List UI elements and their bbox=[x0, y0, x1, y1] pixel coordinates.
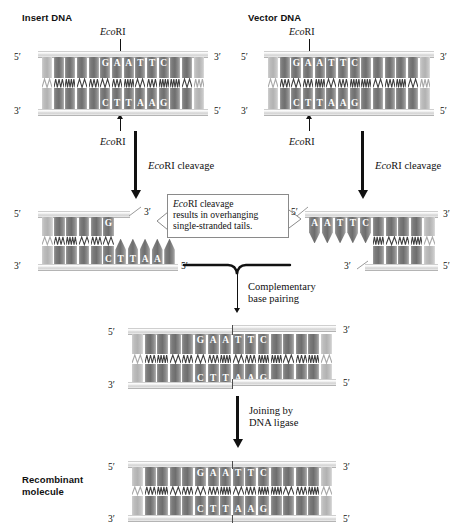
base-pair-column: GC bbox=[103, 217, 114, 265]
base-top-strand: G bbox=[100, 57, 110, 78]
hydrogen-bond-mark bbox=[157, 354, 168, 364]
base-letter: C bbox=[350, 58, 360, 68]
base-pair-column: TA bbox=[135, 57, 145, 109]
prime-3-vector-topright: 3′ bbox=[440, 52, 447, 62]
base-pair-column bbox=[54, 217, 65, 265]
base-pair-column: AT bbox=[208, 334, 219, 384]
base-pair-column: GC bbox=[195, 334, 206, 384]
base-letter: A bbox=[326, 98, 336, 108]
base-top-strand bbox=[132, 467, 143, 486]
base-letter: A bbox=[135, 98, 145, 108]
base-track: AATTC bbox=[309, 217, 435, 265]
base-bottom-strand bbox=[89, 88, 99, 109]
cut-arrow-vector-top bbox=[309, 39, 310, 51]
hydrogen-bond-mark bbox=[100, 78, 110, 88]
base-bottom-strand: T bbox=[124, 88, 134, 109]
base-pair-column: TA bbox=[147, 57, 157, 109]
base-letter: T bbox=[220, 504, 231, 514]
base-letter: A bbox=[220, 468, 231, 478]
base-pair-column: AT bbox=[315, 57, 325, 109]
base-top-strand: T bbox=[147, 57, 157, 78]
base-letter: T bbox=[147, 58, 157, 68]
base-letter: C bbox=[100, 98, 110, 108]
base-pair-column bbox=[42, 217, 53, 265]
base-pair-column: GC bbox=[100, 57, 110, 109]
fragment-vector-top-shoulder bbox=[296, 206, 310, 217]
title-insert-dna: Insert DNA bbox=[22, 12, 72, 23]
hydrogen-bond-mark bbox=[208, 354, 219, 364]
enzyme-label-insert-top: EcoRI bbox=[100, 26, 126, 37]
base-letter: T bbox=[208, 504, 219, 514]
prime-3-vector-botleft: 3′ bbox=[241, 106, 248, 116]
hydrogen-bond-mark bbox=[411, 236, 422, 246]
base-pair-column: AT bbox=[220, 467, 231, 515]
title-vector-dna: Vector DNA bbox=[248, 12, 301, 23]
base-letter: T bbox=[245, 468, 256, 478]
base-pair-column bbox=[321, 467, 332, 515]
base-pair-column: TA bbox=[326, 57, 336, 109]
base-top-strand: A bbox=[220, 334, 231, 354]
base-bottom-strand: T bbox=[112, 88, 122, 109]
base-letter: G bbox=[195, 468, 206, 478]
base-pair-column bbox=[157, 467, 168, 515]
base-letter: A bbox=[208, 335, 219, 345]
base-top-strand bbox=[132, 334, 143, 354]
base-pair-column bbox=[373, 217, 384, 265]
base-top-strand bbox=[145, 334, 156, 354]
base-pair-column bbox=[361, 57, 371, 109]
base-pair-column bbox=[280, 57, 290, 109]
base-top-strand: T bbox=[233, 467, 244, 486]
hydrogen-bond-mark bbox=[361, 78, 371, 88]
base-bottom-strand bbox=[170, 364, 181, 384]
hydrogen-bond-mark bbox=[233, 486, 244, 496]
base-letter: T bbox=[315, 98, 325, 108]
hydrogen-bond-mark bbox=[170, 354, 181, 364]
base-letter: A bbox=[309, 218, 320, 228]
base-bottom-strand: C bbox=[100, 88, 110, 109]
base-top-strand: A bbox=[124, 57, 134, 78]
figure-canvas: Insert DNA Vector DNA EcoRI EcoRI EcoRI … bbox=[0, 0, 465, 527]
base-pair-column: TA bbox=[233, 334, 244, 384]
base-letter: C bbox=[291, 98, 301, 108]
ligation-nick-bottom bbox=[232, 515, 233, 523]
base-bottom-strand bbox=[296, 496, 307, 515]
backbone-bottom-full bbox=[38, 264, 178, 271]
base-top-strand bbox=[385, 57, 395, 78]
base-top-strand bbox=[157, 334, 168, 354]
hydrogen-bond-mark bbox=[280, 78, 290, 88]
hydrogen-bond-mark bbox=[77, 78, 87, 88]
prime-3-insertcut-botleft: 3′ bbox=[14, 261, 21, 271]
base-top-strand: A bbox=[322, 217, 333, 243]
fragment-insert-top-shoulder bbox=[128, 206, 144, 217]
base-top-strand bbox=[283, 334, 294, 354]
base-bottom-strand: T bbox=[220, 364, 231, 384]
hydrogen-bond-mark bbox=[220, 354, 231, 364]
base-letter: T bbox=[128, 254, 139, 264]
base-pair-column bbox=[170, 334, 181, 384]
base-top-strand bbox=[170, 57, 180, 78]
base-bottom-strand: C bbox=[103, 246, 114, 265]
base-letter: G bbox=[291, 58, 301, 68]
base-top-strand: G bbox=[195, 467, 206, 486]
base-bottom-strand bbox=[408, 88, 418, 109]
hydrogen-bond-mark bbox=[373, 236, 384, 246]
cut-arrow-insert-top bbox=[120, 39, 121, 51]
prime-5-vectorcut-topleft: 5′ bbox=[291, 207, 298, 217]
base-top-strand: A bbox=[303, 57, 313, 78]
hydrogen-bond-mark bbox=[315, 78, 325, 88]
base-letter: T bbox=[303, 98, 313, 108]
base-top-strand bbox=[54, 57, 64, 78]
base-letter: T bbox=[245, 335, 256, 345]
recombinant-line-1: Recombinant bbox=[22, 474, 83, 486]
base-letter: G bbox=[350, 98, 360, 108]
base-bottom-strand: A bbox=[245, 496, 256, 515]
base-pair-column: GC bbox=[291, 57, 301, 109]
base-bottom-strand bbox=[91, 246, 102, 265]
hydrogen-bond-mark bbox=[194, 78, 204, 88]
base-top-strand: G bbox=[195, 334, 206, 354]
base-letter: T bbox=[338, 58, 348, 68]
arrow-cleavage-vector bbox=[361, 131, 364, 191]
base-letter: T bbox=[326, 58, 336, 68]
hydrogen-bond-mark bbox=[208, 486, 219, 496]
base-track: GCATATTATACG bbox=[268, 57, 430, 109]
